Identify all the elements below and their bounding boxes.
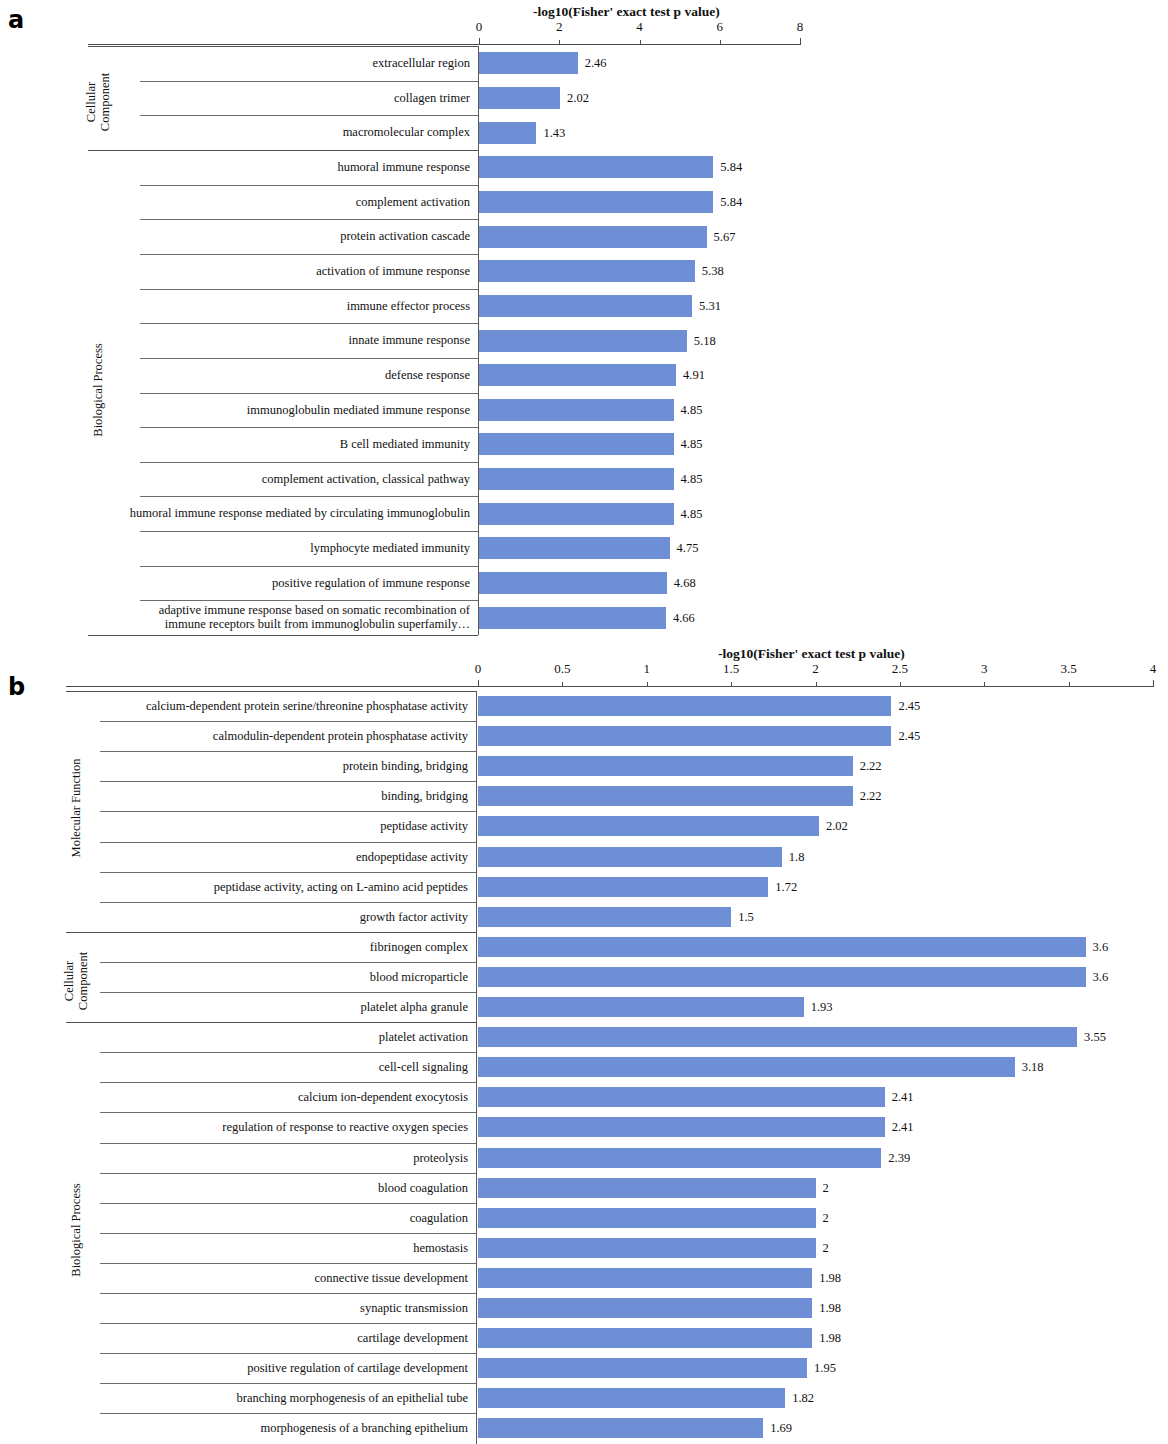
bar-value-label: 1.5 <box>738 911 754 924</box>
bar <box>479 468 674 490</box>
bar-value-label: 4.68 <box>674 577 696 590</box>
label-column-border <box>478 46 479 635</box>
category-label: calcium-dependent protein serine/threoni… <box>100 691 468 721</box>
x-axis-tick-label: 3.5 <box>1061 662 1077 675</box>
bar <box>478 1178 816 1198</box>
category-label: cartilage development <box>100 1323 468 1353</box>
bar <box>478 877 768 897</box>
panel-b-axis-title: -log10(Fisher' exact test p value) <box>718 646 905 662</box>
bar-value-label: 1.98 <box>819 1302 841 1315</box>
bar <box>478 1057 1015 1077</box>
bar-value-label: 2.41 <box>892 1121 914 1134</box>
panel-b: b -log10(Fisher' exact test p value) 00.… <box>0 645 1168 1444</box>
bar-value-label: 3.6 <box>1093 971 1109 984</box>
x-axis-tick-label: 0 <box>476 20 483 33</box>
x-axis-tick <box>816 682 817 687</box>
bar <box>479 364 676 386</box>
bar-value-label: 1.82 <box>792 1392 814 1405</box>
bar <box>478 696 891 716</box>
bar <box>478 816 819 836</box>
bar-value-label: 2.45 <box>898 700 920 713</box>
bar-value-label: 5.84 <box>720 161 742 174</box>
category-label: cell-cell signaling <box>100 1052 468 1082</box>
category-label: regulation of response to reactive oxyge… <box>100 1112 468 1142</box>
x-axis-tick-label: 0 <box>475 662 482 675</box>
bar-value-label: 4.85 <box>681 508 703 521</box>
bar-value-label: 1.8 <box>789 851 805 864</box>
category-label: positive regulation of immune response <box>120 566 470 601</box>
category-label: protein binding, bridging <box>100 751 468 781</box>
category-label: binding, bridging <box>100 781 468 811</box>
bar <box>479 295 692 317</box>
bar <box>479 191 713 213</box>
bar-value-label: 1.69 <box>770 1422 792 1435</box>
bar-value-label: 2.02 <box>567 92 589 105</box>
category-label: morphogenesis of a branching epithelium <box>100 1413 468 1443</box>
bar-value-label: 4.85 <box>681 404 703 417</box>
bar-value-label: 2.02 <box>826 820 848 833</box>
x-axis-tick <box>984 682 985 687</box>
category-label: synaptic transmission <box>100 1293 468 1323</box>
bar <box>479 503 674 525</box>
x-axis-tick-label: 2 <box>812 662 819 675</box>
category-label: calcium ion-dependent exocytosis <box>100 1082 468 1112</box>
bar <box>478 1117 885 1137</box>
category-label: complement activation, classical pathway <box>120 462 470 497</box>
category-label: peptidase activity, acting on L-amino ac… <box>100 872 468 902</box>
x-axis-tick-label: 2.5 <box>892 662 908 675</box>
bar <box>479 87 560 109</box>
label-column-border <box>476 691 477 1444</box>
x-axis-tick <box>1153 680 1154 687</box>
bar <box>478 967 1086 987</box>
x-axis-tick <box>731 682 732 687</box>
bar-value-label: 1.72 <box>775 881 797 894</box>
panel-b-plot-area: calcium-dependent protein serine/threoni… <box>0 691 1168 1444</box>
bar <box>478 786 853 806</box>
x-axis-tick <box>640 40 641 45</box>
bar-value-label: 2 <box>823 1212 829 1225</box>
group-label: Biological Process <box>91 330 105 450</box>
x-axis-tick-label: 4 <box>636 20 643 33</box>
group-column-border <box>88 46 89 635</box>
category-label: B cell mediated immunity <box>120 427 470 462</box>
bar-value-label: 3.6 <box>1093 941 1109 954</box>
panel-a: a -log10(Fisher' exact test p value) 024… <box>0 0 1168 645</box>
x-axis-line <box>66 686 1153 687</box>
bar <box>478 1298 812 1318</box>
x-axis-tick-label: 0.5 <box>554 662 570 675</box>
bar <box>479 226 707 248</box>
category-label: proteolysis <box>100 1143 468 1173</box>
bar <box>479 607 666 629</box>
category-label: hemostasis <box>100 1233 468 1263</box>
bar <box>478 1268 812 1288</box>
bar-value-label: 5.38 <box>702 265 724 278</box>
x-axis-tick-label: 8 <box>797 20 804 33</box>
category-label: endopeptidase activity <box>100 842 468 872</box>
category-label: macromolecular complex <box>120 115 470 150</box>
category-label: fibrinogen complex <box>100 932 468 962</box>
panel-a-axis-title: -log10(Fisher' exact test p value) <box>533 4 720 20</box>
bar-value-label: 4.85 <box>681 438 703 451</box>
bar-value-label: 1.95 <box>814 1362 836 1375</box>
x-axis-tick <box>562 682 563 687</box>
bar-value-label: 1.93 <box>811 1001 833 1014</box>
category-label: positive regulation of cartilage develop… <box>100 1353 468 1383</box>
x-axis-tick <box>1069 682 1070 687</box>
group-column-border <box>66 691 67 1444</box>
bar <box>479 330 687 352</box>
category-label: humoral immune response mediated by circ… <box>120 496 470 531</box>
bar-value-label: 2.22 <box>860 760 882 773</box>
bar-value-label: 5.18 <box>694 335 716 348</box>
bar <box>478 1208 816 1228</box>
bar-value-label: 2.45 <box>898 730 920 743</box>
category-label: extracellular region <box>120 46 470 81</box>
bar-value-label: 1.43 <box>543 127 565 140</box>
category-label: complement activation <box>120 185 470 220</box>
bar <box>478 1328 812 1348</box>
bar <box>478 756 853 776</box>
panel-a-plot-area: extracellular region2.46collagen trimer2… <box>0 46 1168 641</box>
x-axis-tick-label: 1.5 <box>723 662 739 675</box>
category-label: immunoglobulin mediated immune response <box>120 393 470 428</box>
bar <box>479 156 713 178</box>
bar-value-label: 2.39 <box>888 1152 910 1165</box>
